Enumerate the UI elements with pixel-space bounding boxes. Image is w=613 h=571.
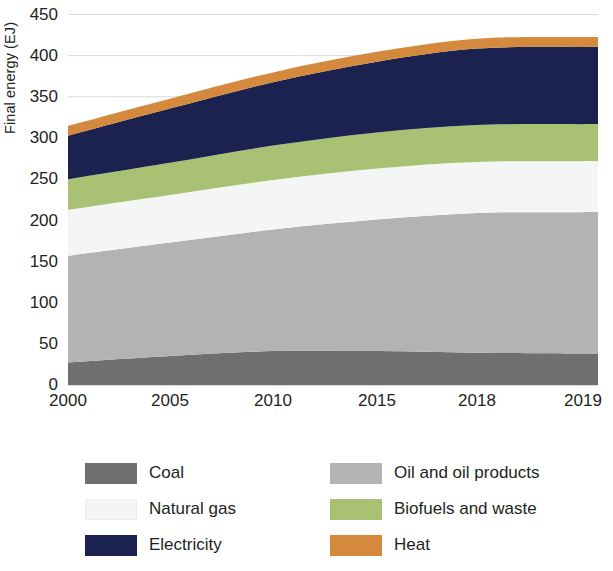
legend-swatch	[330, 463, 382, 484]
y-axis-tick-label: 450	[14, 6, 58, 23]
y-axis-tick-label: 50	[14, 335, 58, 352]
legend-label: Heat	[394, 535, 430, 555]
legend-label: Coal	[149, 463, 184, 483]
x-axis-tick-label: 2010	[238, 392, 308, 409]
y-axis-tick-label: 350	[14, 88, 58, 105]
legend-item[interactable]: Biofuels and waste	[330, 499, 610, 520]
y-axis-tick-label: 200	[14, 212, 58, 229]
legend-item[interactable]: Natural gas	[85, 499, 330, 520]
x-axis-tick-label: 2019	[548, 392, 613, 409]
area-chart-svg	[68, 10, 598, 386]
x-axis-tick-label: 2015	[342, 392, 412, 409]
plot-area	[68, 10, 598, 386]
legend-swatch	[85, 463, 137, 484]
legend-label: Natural gas	[149, 499, 236, 519]
y-axis-tick-label: 250	[14, 170, 58, 187]
stacked-area-chart: Final energy (EJ) 0501001502002503003504…	[0, 0, 613, 571]
y-axis-tick-label: 150	[14, 253, 58, 270]
chart-legend: CoalOil and oil productsNatural gasBiofu…	[85, 455, 605, 563]
y-axis-ticks: 050100150200250300350400450	[0, 0, 58, 400]
legend-swatch	[85, 535, 137, 556]
x-axis-tick-label: 2005	[135, 392, 205, 409]
x-axis-tick-label: 2018	[442, 392, 512, 409]
x-axis-tick-label: 2000	[33, 392, 103, 409]
legend-swatch	[330, 535, 382, 556]
legend-swatch	[85, 499, 137, 520]
legend-item[interactable]: Coal	[85, 463, 330, 484]
y-axis-tick-label: 100	[14, 294, 58, 311]
y-axis-tick-label: 300	[14, 129, 58, 146]
legend-item[interactable]: Heat	[330, 535, 610, 556]
legend-item[interactable]: Electricity	[85, 535, 330, 556]
y-axis-tick-label: 400	[14, 47, 58, 64]
legend-item[interactable]: Oil and oil products	[330, 463, 610, 484]
legend-label: Biofuels and waste	[394, 499, 537, 519]
legend-label: Electricity	[149, 535, 222, 555]
legend-swatch	[330, 499, 382, 520]
legend-label: Oil and oil products	[394, 463, 540, 483]
